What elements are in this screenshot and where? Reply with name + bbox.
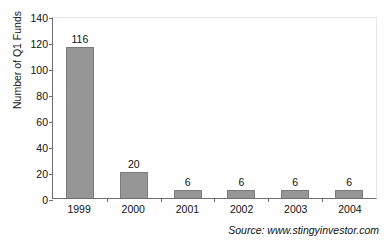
bar[interactable] [227, 190, 255, 198]
x-axis-tick-label: 2001 [160, 203, 214, 218]
y-axis-tick-label: 140 [4, 12, 48, 24]
bar-group: 6 [161, 18, 215, 198]
bars-layer: 116206666 [53, 18, 376, 198]
bar-group: 6 [214, 18, 268, 198]
bar-value-label: 20 [128, 158, 140, 170]
x-axis-tick-mark [161, 198, 162, 202]
bar-value-label: 6 [238, 176, 244, 188]
bar-value-label: 116 [72, 33, 89, 45]
bar[interactable] [174, 190, 202, 198]
bar-group: 116 [53, 18, 107, 198]
bar-chart-figure: Number of Q1 Funds 020406080100120140 11… [0, 0, 387, 243]
source-note: Source: www.stingyinvestor.com [228, 224, 379, 236]
bar-value-label: 6 [292, 176, 298, 188]
y-axis-tick-label: 0 [4, 194, 48, 206]
x-axis-tick-label: 2002 [215, 203, 269, 218]
bar-group: 6 [268, 18, 322, 198]
x-axis-tick-label: 2004 [323, 203, 377, 218]
x-axis-tick-mark [268, 198, 269, 202]
y-axis-tick-label: 60 [4, 116, 48, 128]
bar[interactable] [281, 190, 309, 198]
x-axis-tick-label: 2003 [269, 203, 323, 218]
bar-value-label: 6 [185, 176, 191, 188]
y-axis-tick-mark [49, 200, 53, 201]
x-axis-tick-label: 2000 [106, 203, 160, 218]
bar-value-label: 6 [346, 176, 352, 188]
x-axis-tick-mark [107, 198, 108, 202]
y-axis-tick-label: 100 [4, 64, 48, 76]
x-axis-tick-labels: 199920002001200220032004 [52, 203, 377, 218]
bar[interactable] [66, 47, 94, 198]
x-axis-tick-mark [322, 198, 323, 202]
y-axis-tick-label: 120 [4, 38, 48, 50]
y-axis-tick-label: 80 [4, 90, 48, 102]
bar[interactable] [120, 172, 148, 198]
bar-group: 20 [107, 18, 161, 198]
x-axis-tick-label: 1999 [52, 203, 106, 218]
x-axis-tick-mark [214, 198, 215, 202]
chart-title [84, 0, 380, 2]
bar[interactable] [335, 190, 363, 198]
y-axis-tick-label: 40 [4, 142, 48, 154]
y-axis-tick-label: 20 [4, 168, 48, 180]
plot-area: 020406080100120140 116206666 [52, 17, 377, 199]
bar-group: 6 [322, 18, 376, 198]
